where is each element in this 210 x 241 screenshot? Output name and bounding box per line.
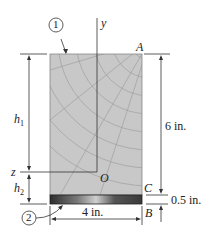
plate-thickness-label: 0.5 in. <box>171 194 201 206</box>
z-axis-label: z <box>11 166 16 178</box>
point-b-label: B <box>145 207 152 219</box>
width-dimension-label: 4 in. <box>82 206 103 218</box>
point-c-label: C <box>144 182 152 194</box>
member-2-label: 2 <box>26 212 32 223</box>
height-dimension-label: 6 in. <box>165 120 186 132</box>
h1-label: h1 <box>14 113 24 128</box>
steel-plate <box>50 195 142 204</box>
h2-label: h2 <box>14 182 24 197</box>
member-1-label: 1 <box>53 19 59 30</box>
y-axis-label: y <box>101 17 106 29</box>
wood-member <box>4 0 210 195</box>
point-a-label: A <box>136 41 143 53</box>
origin-label: O <box>100 172 109 184</box>
